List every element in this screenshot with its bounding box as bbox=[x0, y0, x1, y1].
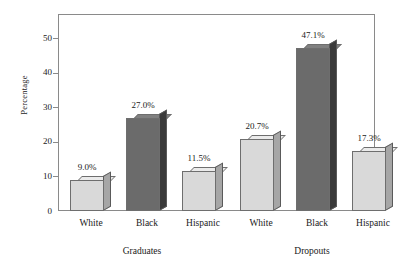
bar-value-label: 17.3% bbox=[338, 134, 400, 143]
bar-value-label: 11.5% bbox=[168, 154, 230, 163]
bar-graduates-white bbox=[70, 180, 104, 211]
bar-dropouts-hispanic bbox=[352, 151, 386, 211]
bar-side-face bbox=[329, 40, 337, 211]
y-tick-label: 40 bbox=[0, 68, 52, 77]
bar-side-face bbox=[159, 109, 167, 211]
group-label-dropouts: Dropouts bbox=[262, 246, 362, 256]
y-tick-label: 10 bbox=[0, 172, 52, 181]
y-axis-title: Percentage bbox=[19, 50, 29, 140]
category-label-hispanic: Hispanic bbox=[338, 218, 402, 228]
y-tick-label: 30 bbox=[0, 103, 52, 112]
bar-value-label: 47.1% bbox=[282, 31, 344, 40]
group-label-graduates: Graduates bbox=[92, 246, 192, 256]
y-tick-label: 20 bbox=[0, 137, 52, 146]
bar-side-face bbox=[215, 163, 223, 211]
bar-graduates-hispanic bbox=[182, 171, 216, 211]
y-tick-label: 0 bbox=[0, 207, 52, 216]
y-tick-label: 50 bbox=[0, 34, 52, 43]
bar-dropouts-white bbox=[240, 139, 274, 211]
bar-side-face bbox=[273, 131, 281, 211]
bar-value-label: 27.0% bbox=[112, 101, 174, 110]
bar-graduates-black bbox=[126, 118, 160, 211]
bar-side-face bbox=[385, 143, 393, 211]
bar-value-label: 20.7% bbox=[226, 122, 288, 131]
bar-dropouts-black bbox=[296, 48, 330, 211]
bar-value-label: 9.0% bbox=[56, 163, 118, 172]
bar-side-face bbox=[103, 171, 111, 211]
